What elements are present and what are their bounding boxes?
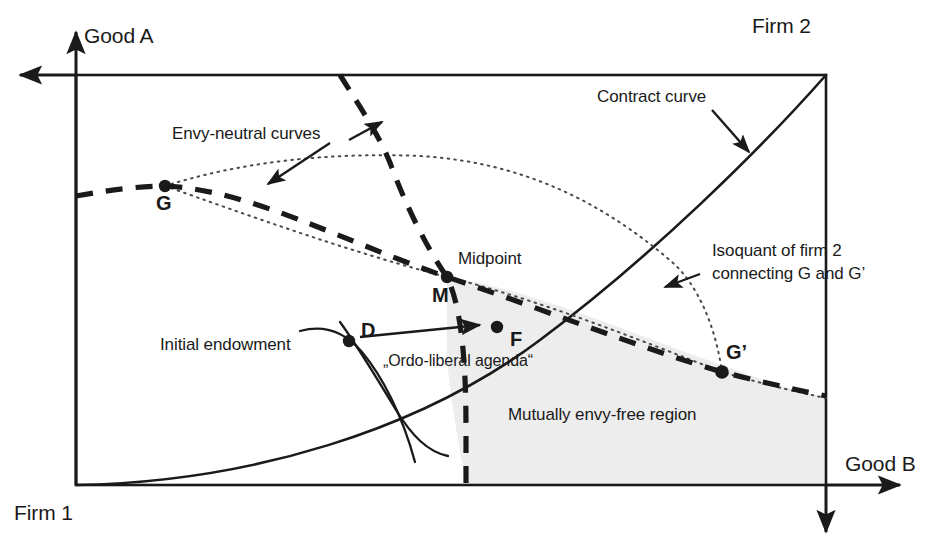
point-marker-D <box>343 335 355 347</box>
envy-neutral-leader-down <box>268 143 330 184</box>
point-marker-G <box>159 180 171 192</box>
point-label-F: F <box>510 328 522 352</box>
point-label-M: M <box>432 284 449 308</box>
isoquant-label-line2: connecting G and G’ <box>712 264 865 284</box>
good-b-axis-label: Good B <box>845 452 916 477</box>
contract-curve-label: Contract curve <box>597 87 706 107</box>
point-marker-G2 <box>715 365 729 379</box>
point-marker-M <box>441 271 453 283</box>
point-label-G-prime: G’ <box>726 341 747 365</box>
envy-neutral-curves-label: Envy-neutral curves <box>172 124 320 144</box>
midpoint-label: Midpoint <box>458 249 521 269</box>
isoquant-label-line1: Isoquant of firm 2 <box>712 241 842 261</box>
firm1-corner-label: Firm 1 <box>14 501 73 526</box>
point-label-D: D <box>361 319 375 343</box>
contract-curve-leader <box>712 110 749 152</box>
point-label-G: G <box>156 192 171 216</box>
edgeworth-box-figure: Good A Good B Firm 2 Firm 1 Envy-neutral… <box>0 0 948 551</box>
good-a-axis-label: Good A <box>84 24 153 49</box>
firm2-corner-label: Firm 2 <box>752 14 811 39</box>
point-marker-F <box>491 321 503 333</box>
isoquant-leader <box>665 274 700 287</box>
mutually-envy-free-region-label: Mutually envy-free region <box>508 405 696 425</box>
initial-endowment-label: Initial endowment <box>160 335 291 355</box>
ordo-liberal-agenda-label: „Ordo-liberal agenda“ <box>383 352 533 371</box>
